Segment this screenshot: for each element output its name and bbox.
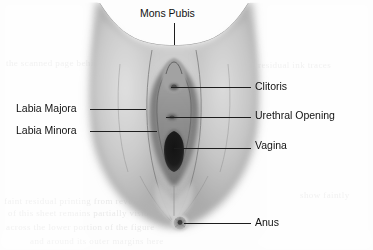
label-anus: Anus [255, 217, 279, 228]
label-mons-pubis: Mons Pubis [140, 8, 195, 19]
label-labia-minora: Labia Minora [16, 125, 77, 136]
label-urethral-opening: Urethral Opening [255, 110, 335, 121]
leader-line-labia-majora [90, 109, 146, 110]
label-vagina: Vagina [255, 140, 287, 151]
leader-line-clitoris [171, 87, 251, 88]
label-clitoris: Clitoris [255, 81, 287, 92]
label-labia-majora: Labia Majora [16, 103, 77, 114]
leader-line-labia-minora [90, 131, 157, 132]
anatomy-figure: the scanned page behind shows through fa… [0, 0, 373, 250]
leader-line-vagina [174, 148, 251, 149]
leader-line-urethral-opening [166, 117, 251, 118]
leader-line-mons-pubis [174, 23, 175, 45]
leader-line-anus [184, 223, 251, 224]
